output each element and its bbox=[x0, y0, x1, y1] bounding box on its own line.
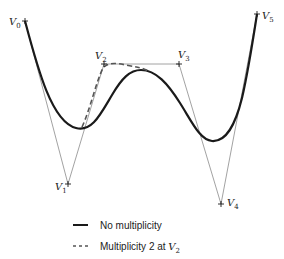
legend-dashed-label: Multiplicity 2 at V2 bbox=[100, 241, 180, 255]
label-v2: V2 bbox=[95, 50, 107, 64]
control-polygon bbox=[25, 14, 257, 204]
legend: No multiplicity Multiplicity 2 at V2 bbox=[73, 220, 180, 255]
label-v0: V0 bbox=[9, 16, 21, 30]
marker-v4 bbox=[218, 201, 224, 207]
label-v5: V5 bbox=[262, 10, 274, 24]
legend-solid-label: No multiplicity bbox=[100, 220, 162, 231]
marker-v0 bbox=[22, 18, 28, 24]
curve-multiplicity-2 bbox=[82, 63, 150, 127]
label-v4: V4 bbox=[227, 197, 239, 211]
control-point-markers bbox=[22, 11, 260, 207]
marker-v5 bbox=[254, 11, 260, 17]
marker-v3 bbox=[176, 61, 182, 67]
curve-no-multiplicity bbox=[25, 14, 257, 141]
label-v1: V1 bbox=[55, 181, 67, 195]
spline-diagram: V0 V1 V2 V3 V4 V5 No multiplicity Multip… bbox=[0, 0, 284, 259]
label-v3: V3 bbox=[178, 49, 190, 63]
